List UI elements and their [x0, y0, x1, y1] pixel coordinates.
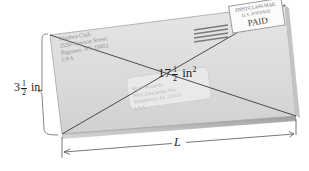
width-fraction: 12 [21, 80, 27, 97]
area-exponent: 2 [192, 65, 196, 74]
width-unit: in. [31, 80, 43, 94]
width-label: 312 in. [14, 80, 43, 97]
area-fraction: 12 [172, 66, 178, 83]
area-fraction-denominator: 2 [172, 75, 178, 83]
area-whole: 17 [158, 65, 171, 80]
length-label: L [174, 136, 181, 148]
area-unit: in [182, 65, 192, 80]
length-variable: L [174, 135, 181, 149]
width-whole: 3 [14, 80, 20, 94]
area-label: 1712 in2 [158, 66, 196, 83]
width-fraction-denominator: 2 [21, 89, 27, 97]
